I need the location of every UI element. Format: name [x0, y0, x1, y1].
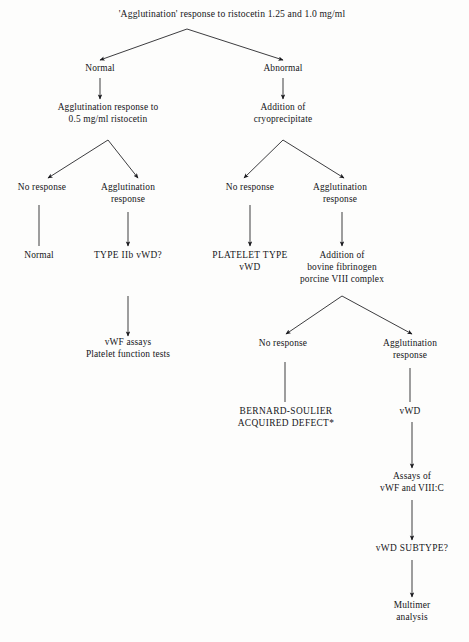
flow-connector	[48, 140, 108, 178]
flow-node-label: Normal	[85, 63, 115, 73]
flow-node-label: response	[393, 350, 427, 360]
flow-node-agg-resp-l: Agglutinationresponse	[101, 182, 155, 204]
flow-node-label: Agglutination	[101, 182, 155, 192]
flow-node-agg-resp-b: Agglutinationresponse	[383, 338, 437, 360]
flow-node-label: Platelet function tests	[86, 349, 170, 359]
flow-node-label: 'Agglutination' response to ristocetin 1…	[119, 8, 346, 19]
flow-node-label: vWD	[239, 262, 260, 272]
flow-node-vwf-assays: vWF assaysPlatelet function tests	[86, 337, 170, 359]
flow-node-label: BERNARD-SOULIER	[240, 406, 333, 416]
flow-node-label: vWD	[400, 406, 421, 416]
flow-node-vwd: vWD	[400, 406, 421, 416]
flow-connector	[108, 140, 138, 178]
flow-node-no-resp-l: No response	[18, 182, 66, 192]
flow-node-label: vWD SUBTYPE?	[376, 543, 449, 553]
flow-connector	[187, 29, 283, 60]
flow-node-agg-05: Agglutination response to0.5 mg/ml risto…	[58, 102, 159, 124]
flow-node-add-cryo: Addition ofcryoprecipitate	[254, 102, 312, 124]
flow-node-abnormal-1: Abnormal	[263, 63, 302, 73]
flow-node-label: vWF and VIII:C	[380, 483, 444, 493]
flow-node-root: 'Agglutination' response to ristocetin 1…	[119, 8, 346, 19]
flow-node-platelet-type: PLATELET TYPEvWD	[212, 250, 287, 272]
flow-connector	[286, 296, 342, 334]
flow-node-add-bovine: Addition ofbovine fibrinogenporcine VIII…	[300, 250, 384, 284]
flow-node-label: Addition of	[319, 250, 365, 260]
flow-connector	[283, 140, 344, 178]
flow-node-type-iib: TYPE IIb vWD?	[94, 250, 162, 260]
flow-node-label: Assays of	[393, 471, 432, 481]
flow-node-assays-of: Assays ofvWF and VIII:C	[380, 471, 444, 493]
flow-node-label: response	[111, 194, 145, 204]
flow-node-multimer: Multimeranalysis	[394, 600, 431, 622]
flow-node-label: No response	[226, 182, 274, 192]
flow-node-label: porcine VIII complex	[300, 274, 384, 284]
flow-node-label: Normal	[24, 250, 54, 260]
node-layer: 'Agglutination' response to ristocetin 1…	[18, 8, 448, 622]
flow-node-label: No response	[18, 182, 66, 192]
flow-node-label: ACQUIRED DEFECT*	[238, 418, 334, 428]
flow-node-agg-resp-r: Agglutinationresponse	[313, 182, 367, 204]
flow-node-vwd-subtype: vWD SUBTYPE?	[376, 543, 449, 553]
flow-node-label: bovine fibrinogen	[307, 262, 377, 272]
flow-node-label: Agglutination	[313, 182, 367, 192]
flow-node-label: Addition of	[260, 102, 306, 112]
flow-node-label: No response	[259, 338, 307, 348]
flowchart-page: 'Agglutination' response to ristocetin 1…	[0, 0, 469, 642]
flow-node-label: Agglutination	[383, 338, 437, 348]
flow-node-label: vWF assays	[105, 337, 152, 347]
flow-node-bernard: BERNARD-SOULIERACQUIRED DEFECT*	[238, 406, 334, 428]
flow-node-label: cryoprecipitate	[254, 114, 312, 124]
flow-node-no-resp-r: No response	[226, 182, 274, 192]
flow-node-label: Abnormal	[263, 63, 302, 73]
flow-node-no-resp-b: No response	[259, 338, 307, 348]
flow-node-label: response	[323, 194, 357, 204]
flow-connector	[244, 140, 283, 178]
flowchart-canvas: 'Agglutination' response to ristocetin 1…	[0, 0, 469, 642]
flow-node-label: TYPE IIb vWD?	[94, 250, 162, 260]
flow-node-label: Multimer	[394, 600, 431, 610]
flow-node-normal-2: Normal	[24, 250, 54, 260]
flow-node-normal-1: Normal	[85, 63, 115, 73]
flow-connector	[342, 296, 412, 334]
flow-node-label: analysis	[396, 612, 428, 622]
flow-node-label: PLATELET TYPE	[212, 250, 287, 260]
flow-node-label: Agglutination response to	[58, 102, 159, 112]
flow-connector	[100, 29, 187, 60]
flow-node-label: 0.5 mg/ml ristocetin	[69, 114, 148, 124]
